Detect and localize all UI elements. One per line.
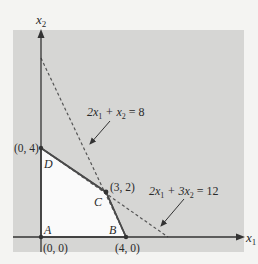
vertex-b-dot (124, 235, 128, 239)
y-axis-label: x2 (35, 12, 46, 29)
vertex-c-coords: (3, 2) (110, 181, 135, 194)
vertex-d-dot (39, 146, 43, 150)
vertex-d-label: D (43, 157, 53, 171)
vertex-c-label: C (94, 195, 103, 209)
vertex-b-label: B (109, 223, 117, 237)
vertex-d-coords: (0, 4) (14, 142, 39, 155)
constraint-label-c2: 2x1 + 3x2 = 12 (149, 184, 219, 200)
x-axis-label: x1 (245, 230, 256, 247)
vertex-c-dot (104, 190, 109, 195)
vertex-b-coords: (4, 0) (115, 242, 140, 255)
vertex-a-label: A (43, 223, 52, 237)
vertex-a-dot (39, 235, 43, 239)
vertex-a-coords: (0, 0) (43, 242, 68, 255)
constraint-label-c1: 2x1 + x2 = 8 (87, 105, 145, 121)
lp-diagram: x2 x1 A B C D (0, 0) (4, 0) (3, 2) (0, 4… (0, 0, 258, 264)
